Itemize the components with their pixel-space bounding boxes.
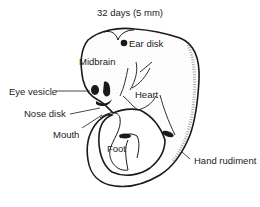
embryo-diagram: 32 days (5 mm) Ear disk Midbrain Eye ves…	[0, 0, 260, 207]
label-eye-vesicle: Eye vesicle	[9, 87, 57, 97]
nose-disk-leader	[70, 108, 100, 114]
ear-disk-dot	[121, 40, 128, 47]
label-hand-rudiment: Hand rudiment	[194, 156, 256, 166]
label-ear-disk: Ear disk	[129, 39, 163, 49]
label-nose-disk: Nose disk	[24, 109, 66, 119]
embryo-illustration	[0, 0, 260, 207]
label-midbrain: Midbrain	[79, 57, 115, 67]
label-heart: Heart	[135, 90, 158, 100]
label-foot: Foot	[107, 144, 126, 154]
embryo-body-outline	[81, 28, 199, 186]
eye-vesicle-dot	[91, 85, 99, 95]
label-mouth: Mouth	[53, 130, 79, 140]
hand-rudiment-leader	[182, 152, 190, 159]
diagram-title: 32 days (5 mm)	[97, 8, 163, 18]
foot-bud	[119, 133, 131, 138]
